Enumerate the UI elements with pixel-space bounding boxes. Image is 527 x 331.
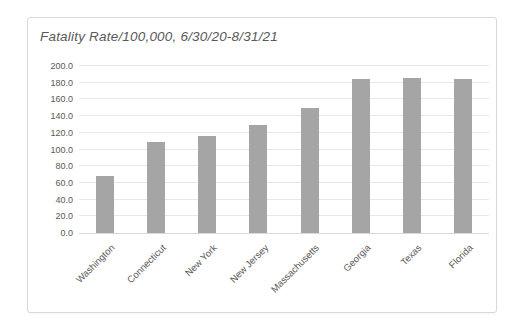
y-tick-label-20: 20.0 — [28, 211, 73, 221]
y-tick-label-0: 0.0 — [28, 228, 73, 238]
y-tick-label-160: 160.0 — [28, 94, 73, 104]
bar-slot — [438, 66, 489, 233]
y-tick-label-200: 200.0 — [28, 61, 73, 71]
chart-title: Fatality Rate/100,000, 6/30/20-8/31/21 — [40, 29, 278, 44]
y-tick-label-120: 120.0 — [28, 128, 73, 138]
y-tick-label-100: 100.0 — [28, 145, 73, 155]
bar-new-jersey — [249, 125, 267, 233]
y-tick-label-140: 140.0 — [28, 111, 73, 121]
bar-slot — [284, 66, 335, 233]
bar-connecticut — [147, 142, 165, 233]
y-tick-label-180: 180.0 — [28, 78, 73, 88]
bar-florida — [454, 79, 472, 233]
chart-frame: Fatality Rate/100,000, 6/30/20-8/31/21 0… — [27, 17, 497, 313]
bar-massachusetts — [301, 108, 319, 233]
x-axis-tick-labels: WashingtonConnecticutNew YorkNew JerseyM… — [79, 233, 489, 303]
y-tick-label-80: 80.0 — [28, 161, 73, 171]
bar-slot — [130, 66, 181, 233]
bar-slot — [387, 66, 438, 233]
y-axis-tick-labels: 0.020.040.060.080.0100.0120.0140.0160.01… — [28, 66, 73, 233]
bars-group — [79, 66, 489, 233]
bar-new-york — [198, 136, 216, 233]
plot-area: WashingtonConnecticutNew YorkNew JerseyM… — [79, 66, 489, 234]
bar-texas — [403, 78, 421, 233]
bar-georgia — [352, 79, 370, 233]
bar-slot — [233, 66, 284, 233]
y-tick-label-60: 60.0 — [28, 178, 73, 188]
bar-slot — [182, 66, 233, 233]
page-canvas: Fatality Rate/100,000, 6/30/20-8/31/21 0… — [0, 0, 527, 331]
bar-slot — [335, 66, 386, 233]
bar-washington — [96, 176, 114, 233]
y-tick-label-40: 40.0 — [28, 195, 73, 205]
bar-slot — [79, 66, 130, 233]
